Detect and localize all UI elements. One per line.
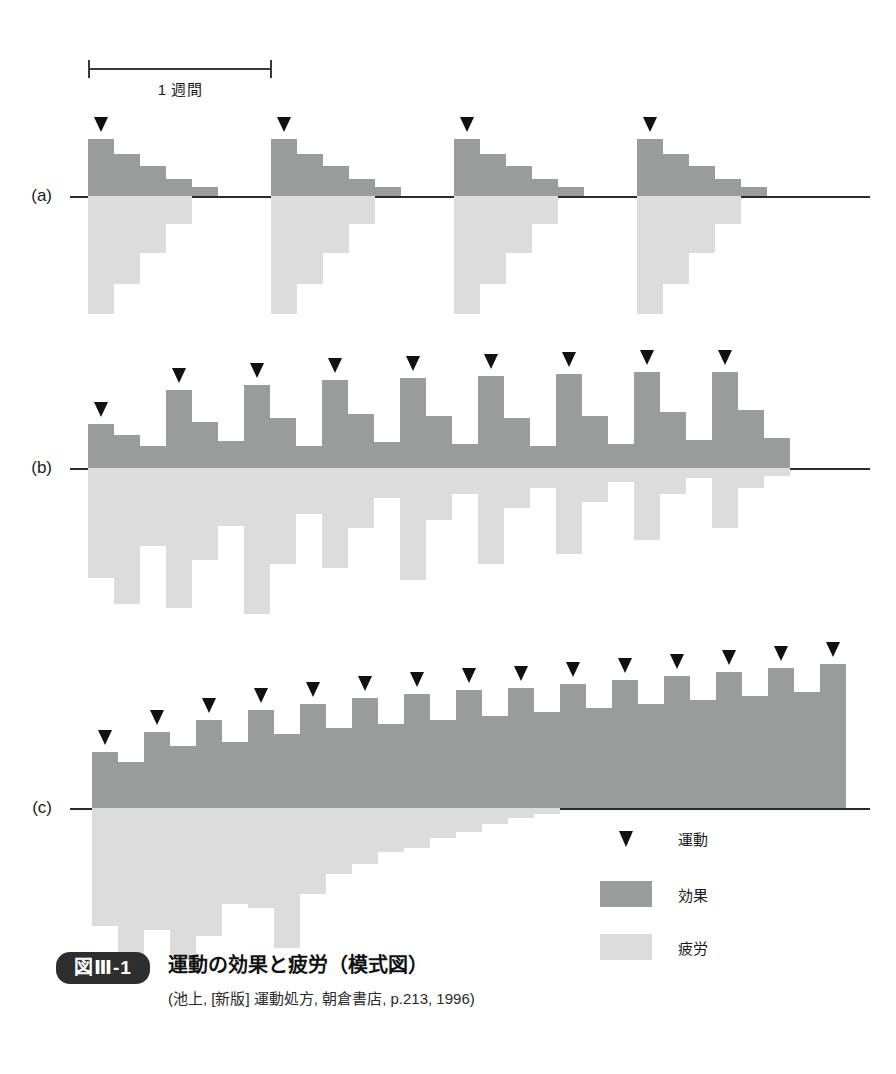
exercise-arrow-marker bbox=[306, 682, 320, 697]
exercise-arrow-marker bbox=[254, 688, 268, 703]
fatigue-bar bbox=[482, 808, 508, 824]
fatigue-bar bbox=[352, 808, 378, 864]
fatigue-bar bbox=[248, 808, 274, 908]
exercise-arrow-icon bbox=[619, 831, 633, 847]
effect-bar bbox=[274, 734, 300, 808]
legend-label: 運動 bbox=[678, 828, 708, 849]
legend-mark-effect bbox=[600, 881, 652, 907]
exercise-arrow-marker bbox=[410, 672, 424, 687]
exercise-arrow-marker bbox=[462, 668, 476, 683]
fatigue-bar bbox=[144, 808, 170, 930]
panel-label-c: (c) bbox=[32, 798, 52, 818]
exercise-arrow-marker bbox=[202, 698, 216, 713]
effect-bar bbox=[118, 762, 144, 808]
effect-bar bbox=[742, 696, 768, 808]
fatigue-bar bbox=[196, 808, 222, 936]
fatigue-bar bbox=[222, 808, 248, 904]
fatigue-bar bbox=[274, 808, 300, 948]
fatigue-bar bbox=[118, 808, 144, 954]
caption: 図Ⅲ-1 運動の効果と疲労（模式図） (池上, [新版] 運動処方, 朝倉書店,… bbox=[56, 952, 856, 1008]
effect-bar bbox=[638, 704, 664, 808]
effect-bar bbox=[456, 690, 482, 808]
effect-bar bbox=[560, 684, 586, 808]
figure-source: (池上, [新版] 運動処方, 朝倉書店, p.213, 1996) bbox=[168, 987, 856, 1008]
exercise-arrow-marker bbox=[618, 658, 632, 673]
effect-bar bbox=[378, 724, 404, 808]
fatigue-bar bbox=[404, 808, 430, 848]
exercise-arrow-marker bbox=[150, 710, 164, 725]
legend-item-0: 運動 bbox=[600, 828, 708, 849]
effect-color-swatch bbox=[600, 881, 652, 907]
effect-bar bbox=[768, 668, 794, 808]
effect-bar bbox=[248, 710, 274, 808]
effect-bar bbox=[612, 680, 638, 808]
effect-bar bbox=[352, 698, 378, 808]
exercise-arrow-marker bbox=[722, 650, 736, 665]
effect-bar bbox=[326, 728, 352, 808]
effect-bar bbox=[300, 704, 326, 808]
legend-label: 効果 bbox=[678, 884, 708, 905]
fatigue-bar bbox=[378, 808, 404, 852]
effect-bar bbox=[794, 692, 820, 808]
legend-item-1: 効果 bbox=[600, 881, 708, 907]
effect-bar bbox=[534, 712, 560, 808]
effect-bar bbox=[144, 732, 170, 808]
fatigue-bar bbox=[534, 808, 560, 814]
effect-bar bbox=[92, 752, 118, 808]
exercise-arrow-marker bbox=[670, 654, 684, 669]
legend-mark-arrow bbox=[600, 831, 652, 847]
exercise-arrow-marker bbox=[566, 662, 580, 677]
fatigue-bar bbox=[92, 808, 118, 926]
fatigue-bar bbox=[326, 808, 352, 874]
effect-bar bbox=[196, 720, 222, 808]
exercise-arrow-marker bbox=[774, 646, 788, 661]
exercise-arrow-marker bbox=[514, 666, 528, 681]
effect-bar bbox=[482, 716, 508, 808]
fatigue-bar bbox=[508, 808, 534, 818]
exercise-arrow-marker bbox=[358, 676, 372, 691]
fatigue-bar bbox=[170, 808, 196, 958]
fatigue-bar bbox=[456, 808, 482, 832]
effect-bar bbox=[222, 742, 248, 808]
effect-bar bbox=[404, 694, 430, 808]
effect-bar bbox=[430, 720, 456, 808]
exercise-arrow-marker bbox=[98, 730, 112, 745]
caption-head: 図Ⅲ-1 運動の効果と疲労（模式図） bbox=[56, 952, 856, 984]
figure-root: 1 週間 (a)(b)(c) 運動効果疲労 図Ⅲ-1 運動の効果と疲労（模式図）… bbox=[0, 0, 896, 1074]
effect-bar bbox=[716, 672, 742, 808]
effect-bar bbox=[664, 676, 690, 808]
fatigue-bar bbox=[430, 808, 456, 838]
figure-title: 運動の効果と疲労（模式図） bbox=[168, 952, 428, 979]
effect-bar bbox=[586, 708, 612, 808]
effect-bar bbox=[820, 664, 846, 808]
effect-bar bbox=[690, 700, 716, 808]
figure-number-badge: 図Ⅲ-1 bbox=[56, 952, 150, 984]
fatigue-bar bbox=[300, 808, 326, 894]
effect-bar bbox=[170, 746, 196, 808]
exercise-arrow-marker bbox=[826, 642, 840, 657]
effect-bar bbox=[508, 688, 534, 808]
